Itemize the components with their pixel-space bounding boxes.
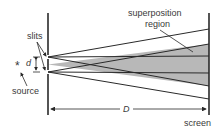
slits-pointer-top: [37, 42, 46, 56]
double-slit-diagram: slits d * source superposition region D …: [0, 0, 223, 137]
slits-pointer-bottom: [37, 42, 45, 70]
slit-separation-label: d: [26, 58, 32, 68]
superposition-label-line1: superposition: [128, 8, 182, 18]
distance-label: D: [123, 104, 130, 114]
source-label: source: [12, 86, 39, 96]
superposition-label-line2: region: [145, 19, 170, 29]
source-star-icon: *: [15, 59, 20, 73]
slits-label: slits: [27, 31, 43, 41]
source-pointer: [21, 73, 27, 86]
screen-label: screen: [184, 118, 211, 128]
superposition-region: [48, 44, 209, 86]
